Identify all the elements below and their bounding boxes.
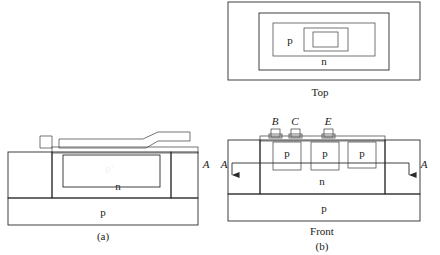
panel-a-section-label: A bbox=[202, 158, 210, 170]
figure-semiconductor-cross-sections: p n p+ (a) bbox=[0, 0, 440, 255]
front-view-p-well-label: p bbox=[359, 147, 365, 159]
top-view-label: Top bbox=[312, 86, 329, 98]
front-view-label: Front bbox=[310, 225, 334, 237]
top-view-p-label: p bbox=[287, 34, 293, 46]
section-label-left: A bbox=[220, 158, 228, 170]
panel-a-p-substrate-label: p bbox=[100, 206, 106, 218]
front-view-p-substrate-label: p bbox=[321, 202, 327, 214]
top-view-n-label: n bbox=[321, 55, 327, 67]
front-view-terminal-B-label: B bbox=[272, 115, 279, 127]
canvas-background bbox=[0, 0, 440, 255]
panel-a-caption: (a) bbox=[97, 230, 110, 243]
panel-b-caption: (b) bbox=[316, 240, 329, 253]
front-view-p-well-label: p bbox=[322, 147, 328, 159]
front-view-n-label: n bbox=[319, 175, 325, 187]
panel-a-n-label: n bbox=[115, 180, 121, 192]
front-view-terminal-E-label: E bbox=[324, 115, 332, 127]
figure-canvas: p n p+ (a) bbox=[0, 0, 440, 255]
section-label-right: A bbox=[420, 158, 428, 170]
front-view-terminal-C-label: C bbox=[291, 115, 299, 127]
front-view-p-well-label: p bbox=[284, 147, 290, 159]
